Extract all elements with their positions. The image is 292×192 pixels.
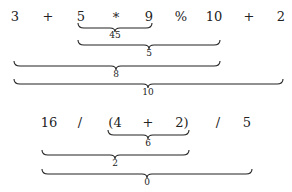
- token-operator: *: [113, 11, 120, 24]
- brace-label: 6: [145, 139, 151, 148]
- brace-label: 5: [146, 49, 152, 58]
- token-operator: +: [244, 10, 255, 23]
- token-operator: +: [143, 116, 154, 129]
- brace-label: 10: [142, 88, 153, 97]
- token: (4: [108, 116, 121, 129]
- token-operator: /: [78, 116, 82, 129]
- brace-label: 0: [144, 178, 150, 187]
- token: 3: [11, 10, 19, 23]
- token: 10: [206, 10, 223, 23]
- token: 16: [41, 116, 58, 129]
- token: 9: [145, 10, 153, 23]
- token: 5: [243, 116, 251, 129]
- token: 2): [175, 116, 188, 129]
- brace-label: 2: [112, 159, 118, 168]
- token: 5: [77, 10, 85, 23]
- token: 2: [277, 10, 285, 23]
- token-operator: /: [216, 116, 220, 129]
- brace-label: 8: [113, 70, 119, 79]
- token-operator: +: [43, 10, 54, 23]
- token-operator: %: [175, 10, 187, 23]
- brace-label: 45: [109, 31, 120, 40]
